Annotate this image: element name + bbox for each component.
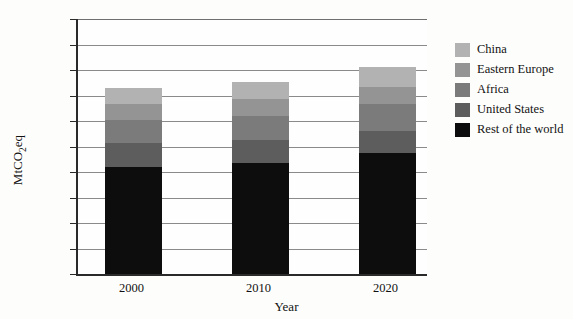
legend-label: Africa: [477, 83, 509, 96]
x-axis-tick-label: 2000: [87, 281, 177, 296]
stacked-bar-chart: MtCO2eq 01002003004005006007008009001,00…: [0, 0, 573, 319]
y-axis-tick-mark: [70, 19, 76, 20]
bar-segment-africa: [105, 120, 162, 143]
legend-label: United States: [477, 103, 544, 116]
bar-segment-united-states: [232, 140, 289, 163]
gridline: [78, 45, 427, 46]
bar-segment-eastern-europe: [359, 87, 416, 105]
bar-segment-united-states: [105, 143, 162, 167]
bar-2000: [105, 88, 162, 274]
legend-item: Africa: [455, 81, 563, 98]
y-axis-tick-mark: [70, 121, 76, 122]
legend-swatch-icon: [455, 83, 470, 97]
bar-segment-united-states: [359, 131, 416, 153]
bar-segment-africa: [359, 104, 416, 131]
gridline: [78, 19, 427, 20]
legend-item: Rest of the world: [455, 121, 563, 138]
bar-segment-rest-of-the-world: [105, 167, 162, 274]
y-axis-title: MtCO2eq: [10, 134, 28, 184]
legend-swatch-icon: [455, 43, 470, 57]
y-axis-tick-mark: [70, 274, 76, 275]
x-axis-tick-label: 2010: [214, 281, 304, 296]
bar-segment-rest-of-the-world: [232, 163, 289, 274]
legend-swatch-icon: [455, 63, 470, 77]
legend-swatch-icon: [455, 103, 470, 117]
bar-segment-africa: [232, 116, 289, 140]
y-axis-tick-mark: [70, 96, 76, 97]
y-axis-tick-mark: [70, 70, 76, 71]
y-axis-tick-mark: [70, 249, 76, 250]
legend-swatch-icon: [455, 123, 470, 137]
y-axis-tick-mark: [70, 223, 76, 224]
legend-label: China: [477, 43, 507, 56]
y-axis-tick-mark: [70, 147, 76, 148]
chart-legend: ChinaEastern EuropeAfricaUnited StatesRe…: [455, 41, 563, 138]
y-axis-tick-mark: [70, 172, 76, 173]
x-axis-tick-label: 2020: [341, 281, 431, 296]
bar-segment-eastern-europe: [232, 99, 289, 116]
bar-segment-rest-of-the-world: [359, 153, 416, 274]
legend-item: Eastern Europe: [455, 61, 563, 78]
bar-segment-china: [232, 82, 289, 100]
y-axis-tick-mark: [70, 198, 76, 199]
bar-segment-china: [359, 67, 416, 86]
y-axis-tick-mark: [70, 45, 76, 46]
bar-2010: [232, 82, 289, 274]
legend-item: China: [455, 41, 563, 58]
legend-label: Rest of the world: [477, 123, 563, 136]
x-axis-title: Year: [0, 299, 573, 315]
bar-segment-eastern-europe: [105, 104, 162, 119]
legend-item: United States: [455, 101, 563, 118]
bar-2020: [359, 67, 416, 274]
plot-area: [76, 19, 427, 276]
legend-label: Eastern Europe: [477, 63, 554, 76]
bar-segment-china: [105, 88, 162, 105]
